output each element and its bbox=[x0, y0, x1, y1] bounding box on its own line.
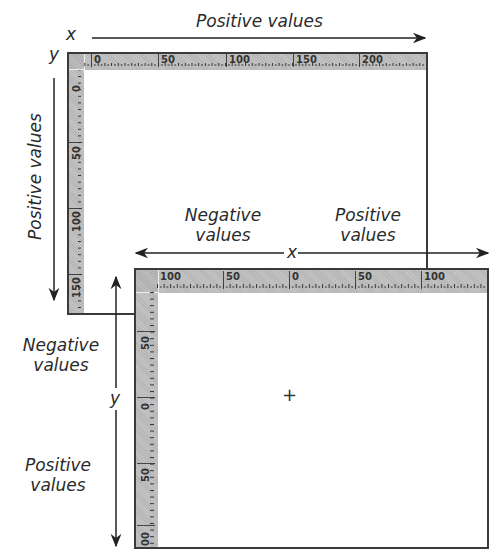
top-hruler-minor-ticks bbox=[84, 60, 426, 68]
bottom-vruler-minor-ticks bbox=[146, 292, 158, 547]
top-vruler-minor-ticks bbox=[74, 70, 84, 313]
bottom-hruler-minor-ticks bbox=[157, 282, 487, 290]
arrows-and-ticks-layer bbox=[0, 0, 502, 560]
